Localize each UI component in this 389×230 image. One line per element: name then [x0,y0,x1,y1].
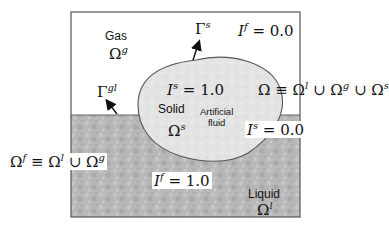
gas-symbol: Ωg [109,45,128,62]
solid-symbol: Ωs [168,122,186,139]
liquid-symbol: Ωl [257,201,273,218]
domain-equation: Ω ≡ Ωl ∪ Ωg ∪ Ωs [258,81,389,98]
fluid-indicator-top: If = 0.0 [238,22,294,39]
gamma-s-label: Γs [195,20,211,37]
fluid-domain-equation: Ωf ≡ Ωl ∪ Ωg [8,153,107,170]
solid-label: Solid [158,103,185,115]
gas-label: Gas [105,30,127,42]
solid-indicator-inside: Is = 1.0 [167,81,224,98]
artificial-fluid-label: Artificial fluid [200,107,233,129]
gamma-gl-label: Γgl [97,83,117,100]
liquid-label: Liquid [248,188,280,200]
solid-indicator-outside: Is = 0.0 [245,121,306,138]
fluid-indicator-bottom: If = 1.0 [152,172,212,189]
